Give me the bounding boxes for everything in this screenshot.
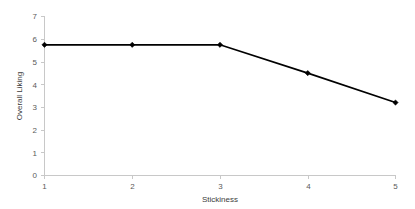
x-tick-label-1: 1 xyxy=(42,182,47,191)
x-tick-label-3: 3 xyxy=(218,182,223,191)
y-tick-label-4: 4 xyxy=(33,81,38,90)
y-tick-label-0: 0 xyxy=(33,171,38,180)
y-tick-label-2: 2 xyxy=(33,126,38,135)
x-tick-label-5: 5 xyxy=(393,182,398,191)
y-axis-title: Overall Liking xyxy=(15,72,24,120)
x-tick-label-4: 4 xyxy=(306,182,311,191)
y-tick-label-6: 6 xyxy=(33,35,38,44)
x-tick-label-2: 2 xyxy=(130,182,135,191)
y-tick-label-1: 1 xyxy=(33,149,38,158)
y-tick-label-7: 7 xyxy=(33,12,38,21)
chart-container: 0 1 2 3 4 5 6 7 1 2 3 4 5 Stickiness Ove… xyxy=(0,0,415,209)
line-chart: 0 1 2 3 4 5 6 7 1 2 3 4 5 Stickiness Ove… xyxy=(0,0,415,209)
chart-background xyxy=(0,0,415,209)
y-tick-label-5: 5 xyxy=(33,58,38,67)
y-tick-label-3: 3 xyxy=(33,103,38,112)
x-axis-title: Stickiness xyxy=(202,195,238,204)
